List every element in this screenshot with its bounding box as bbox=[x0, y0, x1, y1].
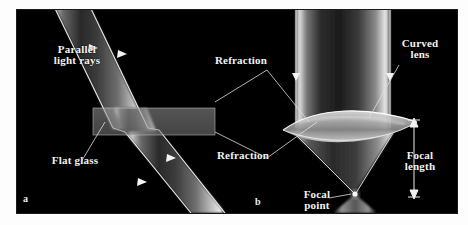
optics-figure: Parallel light rays Flat glass Refractio… bbox=[0, 0, 468, 225]
focal-point-marker bbox=[350, 189, 360, 199]
photograph-panel: Parallel light rays Flat glass Refractio… bbox=[17, 10, 457, 213]
label-parallel-light-rays: Parallel light rays bbox=[35, 44, 119, 66]
panel-letter-b: b bbox=[255, 196, 261, 207]
label-curved-lens: Curved lens bbox=[389, 38, 451, 60]
label-refraction-top: Refraction bbox=[197, 55, 285, 66]
flat-glass-slab bbox=[93, 108, 215, 135]
panel-letter-a: a bbox=[23, 193, 28, 204]
label-focal-length: Focal length bbox=[389, 150, 451, 172]
label-refraction-bottom: Refraction bbox=[199, 150, 287, 161]
label-flat-glass: Flat glass bbox=[31, 155, 119, 166]
label-focal-point: Focal point bbox=[289, 189, 345, 211]
